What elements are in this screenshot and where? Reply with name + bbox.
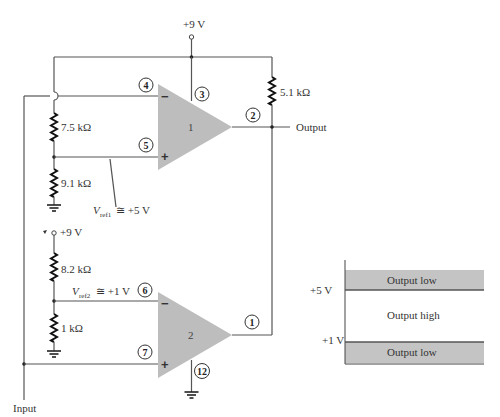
svg-text:ref2: ref2 [79, 292, 91, 300]
lower-threshold-label: +1 V [322, 334, 344, 346]
svg-text:12: 12 [197, 366, 207, 377]
svg-text:3: 3 [200, 89, 205, 100]
resistor-5k1-label: 5.1 kΩ [280, 86, 310, 98]
noninverting-sign: + [161, 149, 169, 164]
output-label: Output [296, 121, 327, 133]
region-bottom-label: Output low [387, 346, 437, 358]
pin-3: 3 [195, 87, 209, 101]
pin-6: 6 [138, 283, 152, 297]
svg-text:1: 1 [250, 317, 255, 328]
resistor-5k1: 5.1 kΩ [269, 57, 310, 335]
svg-text:4: 4 [144, 80, 149, 91]
resistor-8k2-label: 8.2 kΩ [61, 263, 91, 275]
resistor-icon [51, 169, 57, 197]
svg-text:≅ +5 V: ≅ +5 V [116, 204, 150, 216]
window-chart: +5 V +1 V Output low Output high Output … [310, 260, 484, 364]
opamp-number: 1 [188, 121, 194, 133]
inverting-sign: − [161, 296, 169, 311]
input-label: Input [13, 402, 36, 414]
pin-2: 2 [246, 108, 260, 122]
resistor-7k5-label: 7.5 kΩ [61, 121, 91, 133]
top-supply: +9 V [183, 18, 205, 57]
resistor-icon [269, 77, 275, 105]
upper-threshold-label: +5 V [310, 284, 332, 296]
opamp-triangle-icon [158, 292, 232, 378]
svg-text:5: 5 [144, 140, 149, 151]
supply-terminal-icon [52, 231, 56, 235]
inverting-sign: − [161, 89, 169, 104]
vref1-label: V ref1 ≅ +5 V [93, 204, 150, 219]
wire-crossover-icon [54, 92, 58, 100]
opamp-1: − + 1 [158, 84, 232, 170]
arrow-mark-icon [43, 230, 47, 234]
vref2-label: V ref2 ≅ +1 V [72, 285, 130, 300]
resistor-9k1-label: 9.1 kΩ [61, 177, 91, 189]
bottom-supply-label: +9 V [60, 226, 82, 238]
vref1-leader-line [110, 159, 116, 207]
pin-1: 1 [245, 315, 259, 329]
svg-text:ref1: ref1 [100, 211, 112, 219]
region-top-label: Output low [387, 274, 437, 286]
top-supply-label: +9 V [183, 18, 205, 30]
noninverting-sign: + [161, 357, 169, 372]
resistor-icon [51, 113, 57, 141]
opamp-number: 2 [188, 329, 194, 341]
window-comparator-diagram: +9 V 5.1 kΩ Output 7.5 kΩ 9.1 kΩ [0, 0, 500, 417]
svg-text:6: 6 [143, 285, 148, 296]
region-middle-label: Output high [387, 309, 440, 321]
resistor-1k-label: 1 kΩ [61, 322, 83, 334]
pin-12: 12 [195, 364, 210, 379]
pin-4: 4 [139, 78, 153, 92]
opamp-triangle-icon [158, 84, 232, 170]
pin-5: 5 [139, 138, 153, 152]
resistor-icon [51, 253, 57, 281]
resistor-icon [51, 314, 57, 342]
ground-icon [185, 392, 199, 398]
pin-7: 7 [138, 345, 152, 359]
ground-icon [47, 351, 61, 357]
svg-text:2: 2 [251, 110, 256, 121]
supply-terminal-icon [189, 35, 193, 39]
svg-text:7: 7 [143, 347, 148, 358]
divider-vref1: 7.5 kΩ 9.1 kΩ [47, 57, 91, 211]
opamp-2: − + 2 [158, 292, 232, 378]
ground-icon [47, 205, 61, 211]
svg-text:≅ +1 V: ≅ +1 V [96, 285, 130, 297]
